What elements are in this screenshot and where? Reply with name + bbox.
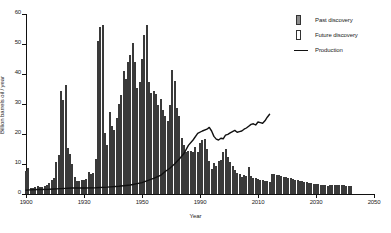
legend-item-future-discovery: Future discovery — [296, 29, 388, 41]
y-axis-title-text: Billion barrels oil / year — [0, 62, 6, 148]
legend-label-future-discovery: Future discovery — [315, 31, 358, 39]
y-axis-title: Billion barrels oil / year — [0, 0, 6, 62]
x-tick-mark — [142, 194, 143, 198]
x-tick-label: 2010 — [245, 199, 271, 206]
past-discovery-swatch-icon — [296, 15, 301, 25]
legend-item-past-discovery: Past discovery — [296, 14, 388, 26]
x-tick-mark — [84, 194, 85, 198]
chart-legend: Past discovery Future discovery Producti… — [296, 14, 388, 59]
growing-gap-chart: 0102030405060 19001930195019902010203020… — [0, 0, 391, 233]
y-tick-label: 0 — [4, 189, 21, 196]
x-tick-mark — [374, 194, 375, 198]
y-tick-label: 60 — [4, 9, 21, 16]
y-tick-label: 40 — [4, 69, 21, 76]
x-tick-label: 2030 — [303, 199, 329, 206]
y-tick-label: 50 — [4, 39, 21, 46]
legend-label-production: Production — [315, 46, 343, 54]
x-axis-title: Year — [0, 213, 391, 220]
legend-item-production: Production — [296, 44, 388, 56]
x-tick-label: 1930 — [71, 199, 97, 206]
x-tick-label: 1900 — [13, 199, 39, 206]
y-tick-label: 20 — [4, 129, 21, 136]
production-polyline — [26, 114, 270, 190]
x-tick-mark — [200, 194, 201, 198]
x-tick-mark — [26, 194, 27, 198]
future-discovery-swatch-icon — [296, 30, 301, 40]
x-tick-mark — [258, 194, 259, 198]
x-tick-mark — [316, 194, 317, 198]
production-line-swatch-icon — [294, 50, 308, 51]
y-tick-label: 30 — [4, 99, 21, 106]
x-tick-label: 1950 — [129, 199, 155, 206]
x-tick-label: 1990 — [187, 199, 213, 206]
x-tick-label: 2050 — [361, 199, 387, 206]
legend-label-past-discovery: Past discovery — [315, 16, 353, 24]
y-tick-label: 10 — [4, 159, 21, 166]
